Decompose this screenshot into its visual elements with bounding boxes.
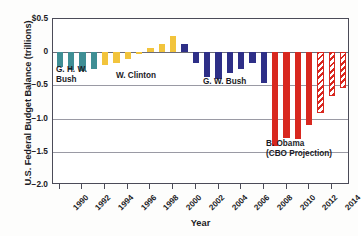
- bar: [295, 52, 302, 138]
- bar: [227, 52, 234, 73]
- x-tick-label: 2000: [184, 193, 203, 212]
- bar: [136, 52, 143, 54]
- annotation-clinton: W. Clinton: [116, 71, 156, 81]
- x-axis-title: Year: [52, 218, 349, 228]
- bar: [170, 36, 177, 52]
- bar: [215, 52, 222, 79]
- bar: [147, 48, 154, 53]
- x-tick-label: 2012: [320, 193, 339, 212]
- y-tick-label: −2.0: [16, 180, 48, 188]
- bar: [91, 52, 98, 69]
- x-tick-label: 1994: [116, 193, 135, 212]
- y-tick-label: $0.5: [16, 14, 48, 22]
- x-tick-label: 1996: [139, 193, 158, 212]
- bar: [159, 44, 166, 53]
- bar: [261, 52, 268, 83]
- bar: [249, 52, 256, 63]
- x-tick-label: 1990: [71, 193, 90, 212]
- y-tick-label: −1.5: [16, 147, 48, 155]
- bar: [272, 52, 279, 146]
- x-tick-label: 2014: [343, 193, 362, 212]
- x-tick-label: 2004: [230, 193, 249, 212]
- bar: [283, 52, 290, 138]
- bar: [113, 52, 120, 63]
- x-tick-label: 2002: [207, 193, 226, 212]
- bar: [317, 52, 324, 113]
- bar: [181, 44, 188, 53]
- annotation-obama: B. Obama (CBO Projection): [266, 139, 332, 160]
- bar: [238, 52, 245, 69]
- x-tick-label: 2010: [298, 193, 317, 212]
- y-axis-tick-labels: $0.50−0.5−1.0−1.5−2.0: [14, 0, 48, 236]
- bar: [204, 52, 211, 77]
- bar: [340, 52, 347, 88]
- y-tick-label: −1.0: [16, 114, 48, 122]
- bar: [102, 52, 109, 65]
- x-tick-label: 1998: [162, 193, 181, 212]
- bar: [329, 52, 336, 96]
- x-tick-label: 2006: [252, 193, 271, 212]
- bar: [193, 52, 200, 63]
- plot-area: G. H. W. Bush W. Clinton G. W. Bush B. O…: [52, 18, 349, 184]
- x-tick-label: 2008: [275, 193, 294, 212]
- bar: [306, 52, 313, 124]
- annotation-gw-bush: G. W. Bush: [203, 77, 246, 87]
- y-tick-label: −0.5: [16, 80, 48, 88]
- x-tick-label: 1992: [94, 193, 113, 212]
- annotation-ghw-bush: G. H. W. Bush: [56, 65, 87, 84]
- bar: [125, 52, 132, 59]
- y-tick-label: 0: [16, 47, 48, 55]
